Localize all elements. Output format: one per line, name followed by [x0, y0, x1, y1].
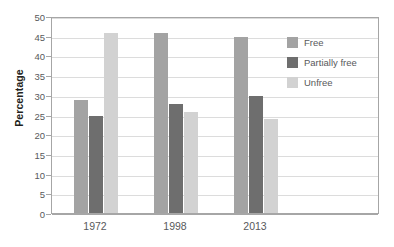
gridline	[52, 18, 378, 19]
y-tick-label: 20	[21, 130, 45, 141]
y-tick-label: 25	[21, 110, 45, 121]
x-tick-label: 2013	[243, 220, 266, 232]
legend-item: Unfree	[287, 77, 357, 88]
legend-label: Free	[304, 37, 324, 48]
x-tick-label: 1972	[83, 220, 106, 232]
legend-item: Partially free	[287, 57, 357, 68]
y-tick-label: 5	[21, 189, 45, 200]
y-tick-mark	[46, 214, 51, 215]
y-tick-label: 30	[21, 90, 45, 101]
legend-swatch-icon	[287, 37, 298, 48]
y-tick-label: 35	[21, 71, 45, 82]
legend-label: Partially free	[304, 57, 357, 68]
legend: FreePartially freeUnfree	[287, 37, 357, 88]
bar	[169, 104, 183, 213]
x-tick-label: 1998	[163, 220, 186, 232]
gridline	[52, 214, 378, 215]
legend-label: Unfree	[304, 77, 333, 88]
y-tick-label: 10	[21, 169, 45, 180]
bar	[234, 37, 248, 213]
legend-item: Free	[287, 37, 357, 48]
legend-swatch-icon	[287, 77, 298, 88]
bar	[154, 33, 168, 213]
bar	[264, 119, 278, 213]
bar	[89, 116, 103, 214]
legend-swatch-icon	[287, 57, 298, 68]
y-tick-label: 45	[21, 31, 45, 42]
y-tick-label: 0	[21, 209, 45, 220]
y-tick-label: 15	[21, 149, 45, 160]
bar	[104, 33, 118, 213]
y-tick-label: 40	[21, 51, 45, 62]
y-tick-label: 50	[21, 12, 45, 23]
bar-chart: Percentage 05101520253035404550 19721998…	[0, 0, 394, 247]
bar	[249, 96, 263, 213]
gridline	[52, 97, 378, 98]
bar	[184, 112, 198, 213]
bar	[74, 100, 88, 213]
